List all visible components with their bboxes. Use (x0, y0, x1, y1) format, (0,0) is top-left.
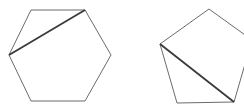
figure-canvas (0, 0, 244, 110)
polygon-diagram (0, 0, 244, 110)
background (0, 0, 244, 110)
